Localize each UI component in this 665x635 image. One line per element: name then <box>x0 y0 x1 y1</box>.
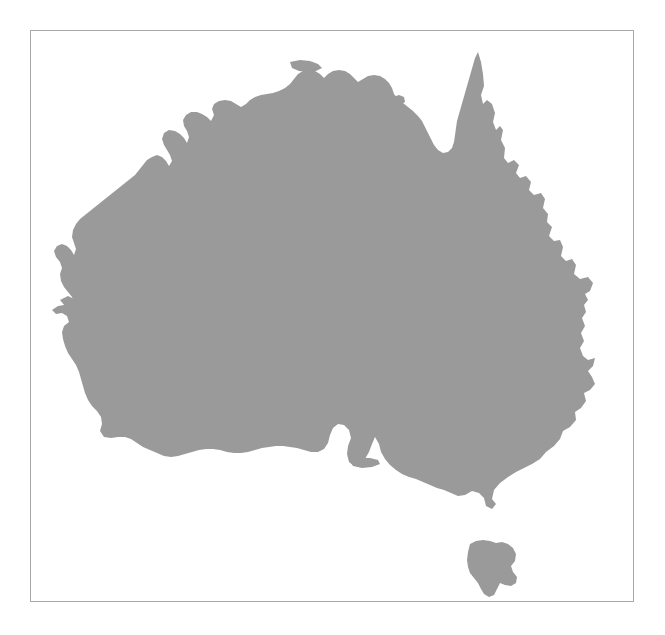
landmass-group <box>52 52 595 597</box>
melville-island-landmass <box>290 60 322 72</box>
figure-root: Map of Australia Gray silhouette map of … <box>0 0 665 635</box>
mainland-landmass <box>52 52 595 509</box>
tasmania-landmass <box>467 540 517 597</box>
australia-map-svg: Map of Australia Gray silhouette map of … <box>0 0 665 635</box>
